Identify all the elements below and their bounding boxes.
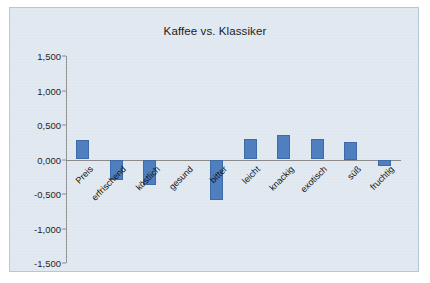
x-axis-label: leicht	[240, 164, 262, 186]
bar	[311, 139, 324, 159]
y-tick-label: -1,500	[34, 258, 61, 269]
bar	[244, 139, 257, 160]
y-tick-mark	[62, 263, 66, 264]
plot-area: 1,5001,0000,5000,000-0,500-1,000-1,500 P…	[66, 56, 401, 263]
bar	[344, 142, 357, 159]
y-tick-label: 0,500	[37, 120, 61, 131]
x-axis-label: exotisch	[299, 164, 329, 194]
bar	[76, 140, 89, 159]
y-tick-mark	[62, 194, 66, 195]
chart-container: Kaffee vs. Klassiker 1,5001,0000,5000,00…	[9, 7, 419, 272]
y-tick-mark	[62, 228, 66, 229]
y-tick-label: -0,500	[34, 189, 61, 200]
x-axis-label: fruchtig	[368, 164, 396, 192]
x-axis-label: gesund	[167, 164, 195, 192]
y-tick-mark	[62, 90, 66, 91]
y-tick-mark	[62, 125, 66, 126]
y-tick-label: 1,000	[37, 85, 61, 96]
chart-title: Kaffee vs. Klassiker	[10, 25, 420, 37]
y-tick-label: -1,000	[34, 223, 61, 234]
bar	[277, 135, 290, 159]
x-axis-label: Preis	[73, 164, 95, 186]
y-tick-mark	[62, 56, 66, 57]
y-tick-label: 0,000	[37, 154, 61, 165]
x-axis-label: knackig	[267, 164, 296, 193]
x-axis-label: süß	[345, 164, 363, 182]
y-tick-label: 1,500	[37, 51, 61, 62]
